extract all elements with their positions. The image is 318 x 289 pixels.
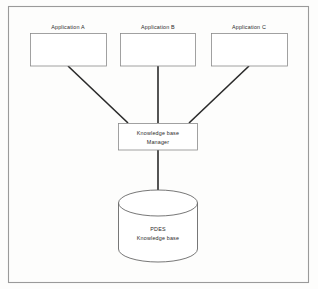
connector-a-to-manager (68, 66, 128, 123)
pdes-knowledge-base-label-line2: Knowledge base (137, 235, 179, 241)
diagram-svg: Application A Application B Application … (0, 0, 318, 289)
application-a-label: Application A (51, 24, 85, 30)
application-c-label: Application C (232, 24, 266, 30)
knowledge-base-manager-box[interactable] (119, 124, 198, 151)
diagram-canvas: Application A Application B Application … (0, 0, 318, 289)
pdes-knowledge-base-label-line1: PDES (150, 226, 166, 232)
application-c-box[interactable] (212, 34, 288, 67)
pdes-knowledge-base-cylinder-top (119, 190, 198, 216)
knowledge-base-manager-label-line2: Manager (147, 139, 170, 145)
knowledge-base-manager-label-line1: Knowledge base (137, 130, 179, 136)
node-application-a[interactable]: Application A (31, 24, 107, 66)
node-knowledge-base-manager[interactable]: Knowledge base Manager (119, 124, 198, 151)
node-application-b[interactable]: Application B (121, 24, 196, 66)
node-application-c[interactable]: Application C (212, 24, 288, 66)
connector-c-to-manager (189, 66, 249, 123)
application-b-label: Application B (141, 24, 175, 30)
node-pdes-knowledge-base[interactable]: PDES Knowledge base (119, 190, 198, 262)
application-a-box[interactable] (31, 34, 107, 67)
application-b-box[interactable] (121, 34, 196, 67)
